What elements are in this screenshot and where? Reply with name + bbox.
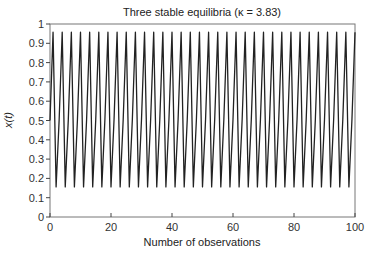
y-tick-label: 1	[38, 18, 44, 30]
y-tick-label: 0.1	[29, 192, 44, 204]
y-tick-label: 0.4	[29, 134, 44, 146]
y-tick-label: 0.2	[29, 172, 44, 184]
y-tick-label: 0.5	[29, 115, 44, 127]
x-axis: 020406080100	[47, 213, 364, 233]
x-tick-label: 100	[346, 221, 364, 233]
chart-title: Three stable equilibria (κ = 3.83)	[123, 6, 281, 18]
x-tick-label: 80	[288, 221, 300, 233]
x-tick-label: 0	[47, 221, 53, 233]
y-tick-label: 0.8	[29, 57, 44, 69]
y-tick-label: 0	[38, 211, 44, 223]
y-tick-label: 0.7	[29, 76, 44, 88]
y-axis-title: x(t)	[2, 112, 14, 129]
line-chart: Three stable equilibria (κ = 3.83) 00.10…	[0, 0, 380, 260]
y-tick-label: 0.9	[29, 37, 44, 49]
y-tick-label: 0.3	[29, 153, 44, 165]
y-tick-label: 0.6	[29, 95, 44, 107]
series-line-x-t	[50, 32, 355, 187]
y-axis: 00.10.20.30.40.50.60.70.80.91	[29, 18, 50, 223]
x-tick-label: 60	[227, 221, 239, 233]
x-tick-label: 40	[166, 221, 178, 233]
x-axis-title: Number of observations	[144, 236, 261, 248]
x-tick-label: 20	[105, 221, 117, 233]
